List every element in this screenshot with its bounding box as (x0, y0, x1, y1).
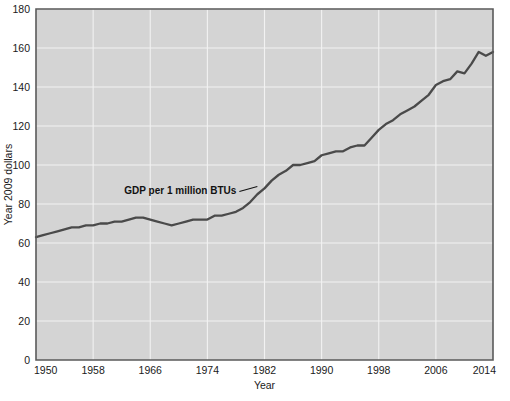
y-axis-tick-label: 140 (12, 81, 30, 93)
line-chart: 0204060801001201401601801950195819661974… (0, 0, 510, 401)
x-axis-tick-label: 1990 (310, 364, 334, 376)
y-axis-tick-label: 180 (12, 3, 30, 15)
y-axis-tick-label: 20 (18, 315, 30, 327)
y-axis-tick-label: 60 (18, 237, 30, 249)
y-axis-tick-label: 120 (12, 120, 30, 132)
y-axis-tick-label: 160 (12, 42, 30, 54)
x-axis-title: Year (254, 379, 276, 391)
x-axis-tick-label: 1950 (34, 364, 58, 376)
x-axis-tick-label: 2014 (473, 364, 497, 376)
figure-footer-strip (0, 393, 510, 401)
x-axis-tick-label: 1974 (196, 364, 220, 376)
y-axis-title: Year 2009 dollars (2, 144, 14, 225)
y-axis-tick-label: 0 (24, 354, 30, 366)
chart-figure: 0204060801001201401601801950195819661974… (0, 0, 510, 401)
y-axis-tick-label: 80 (18, 198, 30, 210)
x-axis-tick-label: 2006 (424, 364, 448, 376)
series-annotation-label: GDP per 1 million BTUs (124, 185, 236, 196)
x-axis-tick-label: 1982 (253, 364, 277, 376)
y-axis-tick-label: 40 (18, 276, 30, 288)
x-axis-tick-label: 1958 (81, 364, 105, 376)
x-axis-tick-label: 1966 (139, 364, 163, 376)
x-axis-tick-label: 1998 (367, 364, 391, 376)
y-axis-tick-label: 100 (12, 159, 30, 171)
